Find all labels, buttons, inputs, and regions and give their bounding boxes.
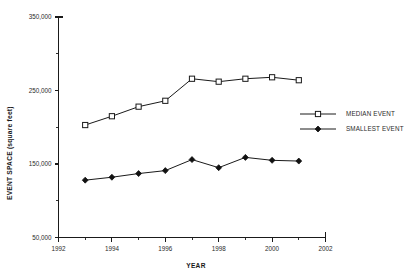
y-tick-label: 250,000 [29, 87, 52, 94]
smallest-event-marker [82, 177, 88, 183]
legend-marker [315, 126, 321, 132]
smallest-event-marker [189, 157, 195, 163]
legend-label: MEDIAN EVENT [346, 110, 395, 117]
smallest-event-marker [136, 171, 142, 177]
x-tick-label: 1994 [105, 245, 120, 252]
series-polyline [85, 77, 299, 125]
x-tick-label: 2002 [318, 245, 333, 252]
line-chart: 50,000150,000250,000350,000 199219941996… [0, 0, 404, 274]
x-axis-title: YEAR [186, 262, 205, 269]
series-median-event [83, 75, 302, 128]
legend-marker [315, 111, 320, 116]
x-tick-label: 1996 [158, 245, 173, 252]
smallest-event-marker [216, 165, 222, 171]
y-tick-label: 50,000 [32, 234, 52, 241]
x-tick-label: 2000 [265, 245, 280, 252]
smallest-event-marker [296, 158, 302, 164]
median-event-marker [270, 75, 275, 80]
median-event-marker [296, 78, 301, 83]
median-event-marker [243, 76, 248, 81]
series-smallest-event [82, 154, 301, 183]
median-event-marker [163, 98, 168, 103]
y-axis-title: EVENT SPACE (square feet) [6, 106, 14, 200]
x-tick-label: 1992 [51, 245, 66, 252]
median-event-marker [136, 104, 141, 109]
chart-legend: MEDIAN EVENTSMALLEST EVENT [300, 110, 404, 132]
x-tick-label: 1998 [212, 245, 227, 252]
legend-label: SMALLEST EVENT [346, 125, 404, 132]
smallest-event-marker [162, 168, 168, 174]
median-event-marker [189, 76, 194, 81]
smallest-event-marker [109, 174, 115, 180]
axes-group [59, 17, 326, 238]
y-axis-tick-labels: 50,000150,000250,000350,000 [29, 13, 52, 241]
x-axis-tick-labels: 199219941996199820002002 [51, 245, 333, 252]
smallest-event-marker [243, 154, 249, 160]
median-event-marker [83, 122, 88, 127]
x-axis-ticks [59, 238, 326, 242]
median-event-marker [216, 79, 221, 84]
y-tick-label: 350,000 [29, 13, 52, 20]
y-tick-label: 150,000 [29, 160, 52, 167]
smallest-event-marker [269, 157, 275, 163]
median-event-marker [109, 114, 114, 119]
y-axis-ticks [55, 17, 59, 238]
chart-container: 50,000150,000250,000350,000 199219941996… [0, 0, 404, 274]
